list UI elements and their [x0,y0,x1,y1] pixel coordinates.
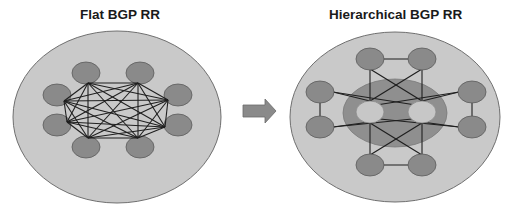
rr-client-node [408,48,436,70]
as-boundary [13,31,221,203]
rr-client-node [306,81,334,103]
router-node [72,62,100,84]
route-reflector-node [408,101,436,123]
rr-client-node [408,154,436,176]
rr-client-node [356,48,384,70]
rr-client-node [458,116,486,138]
rr-client-node [458,81,486,103]
right-arrow-icon [243,99,276,123]
router-node [164,114,192,136]
transition-arrow-icon [243,99,276,123]
flat-bgp-rr-diagram [13,31,221,203]
rr-client-node [356,154,384,176]
hierarchical-bgp-rr-diagram [290,32,500,202]
router-node [126,136,154,158]
diagram-canvas [0,0,511,207]
router-node [72,136,100,158]
router-node [126,62,154,84]
route-reflector-node [356,101,384,123]
rr-client-node [306,116,334,138]
